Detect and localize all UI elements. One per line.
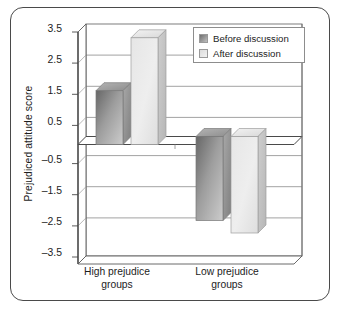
base-floor	[78, 256, 302, 264]
bar-low-after	[231, 129, 266, 234]
legend-item-before: Before discussion	[199, 31, 300, 46]
legend-label: After discussion	[213, 48, 281, 59]
bar-high-after	[131, 30, 166, 145]
x-axis-label-line1: Low prejudice	[172, 266, 282, 279]
x-axis-label-high-prejudice: High prejudice groups	[62, 266, 172, 291]
bar-chart: Prejudiced attitude score 3.5 2.5 1.5 0.…	[0, 0, 343, 315]
x-axis-label-line1: High prejudice	[62, 266, 172, 279]
chart-legend: Before discussion After discussion	[193, 27, 305, 63]
legend-label: Before discussion	[213, 33, 289, 44]
legend-swatch-icon	[199, 34, 208, 43]
bar-low-before	[196, 129, 231, 221]
bar-high-before	[96, 83, 131, 145]
x-axis-label-line2: groups	[172, 279, 282, 292]
legend-swatch-icon	[199, 49, 208, 58]
x-axis-label-line2: groups	[62, 279, 172, 292]
legend-item-after: After discussion	[199, 46, 300, 61]
y-axis-ticks	[72, 32, 78, 257]
x-axis-label-low-prejudice: Low prejudice groups	[172, 266, 282, 291]
